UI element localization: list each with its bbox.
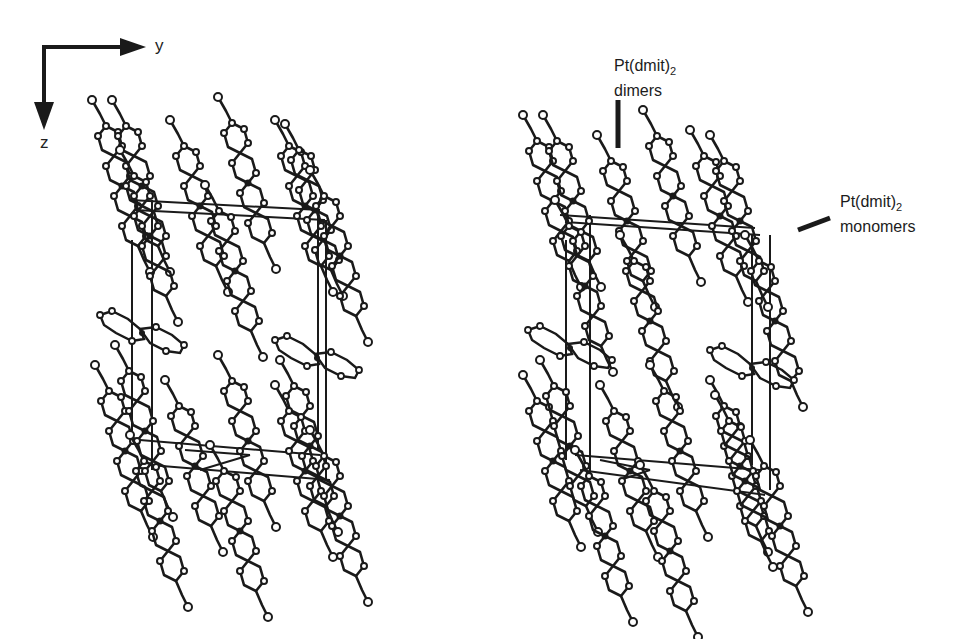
crystal-structure-left — [0, 0, 490, 639]
dimers-annotation: Pt(dmit)2 dimers — [614, 56, 676, 101]
monomers-subscript: 2 — [896, 201, 902, 213]
dimers-formula: Pt(dmit) — [614, 57, 670, 74]
monomers-annotation: Pt(dmit)2 monomers — [840, 192, 916, 237]
monomers-pointer — [798, 218, 830, 230]
crystal-structure-right: Pt(dmit)2 dimers Pt(dmit)2 monomers — [490, 0, 980, 639]
monomers-formula: Pt(dmit) — [840, 193, 896, 210]
molecule-packing-left — [0, 0, 490, 639]
monomers-label: monomers — [840, 218, 916, 235]
dimers-label: dimers — [614, 82, 662, 99]
dimers-subscript: 2 — [670, 65, 676, 77]
molecule-packing-right — [490, 0, 980, 639]
